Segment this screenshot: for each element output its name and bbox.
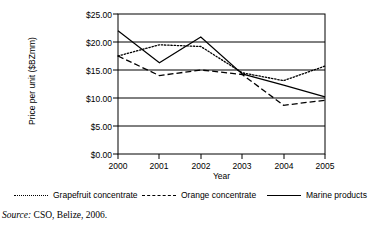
- legend-item-orange-concentrate: Orange concentrate: [142, 188, 256, 202]
- source-text: CSO, Belize, 2006.: [34, 210, 108, 220]
- chart-legend: Grapefruit concentrate Orange concentrat…: [0, 188, 381, 206]
- legend-swatch-solid-icon: [267, 190, 301, 200]
- legend-item-grapefruit-concentrate: Grapefruit concentrate: [14, 188, 138, 202]
- y-tick-label-10: $10.00: [68, 94, 112, 104]
- x-axis-title: Year: [118, 171, 325, 181]
- legend-label-orange-concentrate: Orange concentrate: [181, 190, 256, 200]
- legend-item-marine-products: Marine products: [267, 188, 367, 202]
- y-tick-label-0: $0.00: [68, 150, 112, 160]
- legend-label-grapefruit-concentrate: Grapefruit concentrate: [53, 190, 138, 200]
- y-tick-label-20: $20.00: [68, 38, 112, 48]
- line-chart: Price per unit ($BZmm) $25.00 $20.00 $15…: [0, 0, 381, 186]
- x-tick-label-2001: 2001: [138, 161, 180, 171]
- x-axis-ticks: [118, 154, 325, 159]
- x-tick-label-2004: 2004: [263, 161, 305, 171]
- source-note: Source: CSO, Belize, 2006.: [2, 210, 107, 220]
- y-axis-title: Price per unit ($BZmm): [27, 17, 37, 145]
- legend-label-marine-products: Marine products: [306, 190, 367, 200]
- source-label: Source:: [2, 210, 31, 220]
- plot-area: [0, 0, 381, 186]
- series-line-marine-products: [118, 31, 325, 97]
- y-tick-label-5: $5.00: [68, 122, 112, 132]
- figure: Price per unit ($BZmm) $25.00 $20.00 $15…: [0, 0, 381, 231]
- x-tick-label-2000: 2000: [97, 161, 139, 171]
- x-tick-label-2005: 2005: [304, 161, 346, 171]
- x-tick-label-2002: 2002: [180, 161, 222, 171]
- y-axis-ticks: [113, 14, 118, 154]
- plot-frame: [118, 14, 325, 154]
- series-line-grapefruit-concentrate: [118, 45, 325, 81]
- legend-swatch-dotted-icon: [14, 190, 48, 200]
- y-tick-label-15: $15.00: [68, 66, 112, 76]
- legend-swatch-dashed-icon: [142, 190, 176, 200]
- x-tick-label-2003: 2003: [221, 161, 263, 171]
- y-tick-label-25: $25.00: [68, 10, 112, 20]
